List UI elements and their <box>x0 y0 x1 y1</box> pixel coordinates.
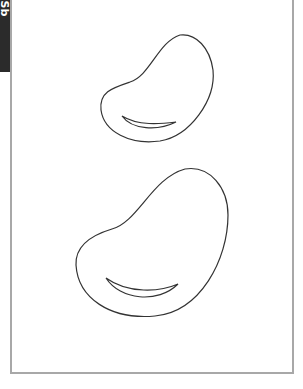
large-bean-shape <box>76 169 228 317</box>
small-bean-shape <box>101 35 213 142</box>
large-bean-crescent <box>106 278 178 297</box>
small-bean-crescent <box>122 116 176 128</box>
drawing-canvas <box>0 0 303 389</box>
